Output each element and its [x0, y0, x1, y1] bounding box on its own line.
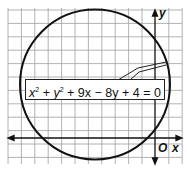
y-axis-label: y: [159, 6, 166, 20]
eq-rest: + 9x − 8y + 4 = 0: [64, 86, 161, 100]
y-axis-down-arrow-icon: [153, 158, 158, 164]
graph-figure: x2 + y2 + 9x − 8y + 4 = 0 y x O: [0, 0, 187, 169]
x-axis-left-arrow-icon: [8, 136, 14, 141]
x-axis-label: x: [172, 141, 179, 155]
leader-line-2: [130, 65, 166, 80]
origin-label: O: [158, 141, 167, 155]
equation-label: x2 + y2 + 9x − 8y + 4 = 0: [25, 79, 165, 100]
y-axis-up-arrow-icon: [153, 10, 158, 16]
x-axis-right-arrow-icon: [176, 136, 182, 141]
eq-plus: +: [39, 86, 53, 100]
